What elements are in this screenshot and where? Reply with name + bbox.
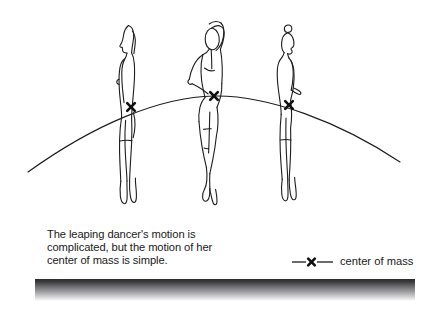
legend-x-marker (308, 259, 315, 266)
legend-swatch (292, 259, 333, 266)
floor-gradient-bar (35, 279, 415, 301)
center-of-mass-parabola (28, 96, 400, 172)
dancer-middle (188, 22, 224, 205)
x-marker-left (127, 103, 135, 111)
center-of-mass-markers (127, 92, 293, 111)
dancer-left (117, 26, 137, 204)
dancer-center-of-mass-figure: The leaping dancer's motion is complicat… (0, 0, 430, 313)
legend-label: center of mass (340, 255, 413, 268)
dancer-right (277, 25, 301, 201)
figure-caption: The leaping dancer's motion is complicat… (47, 228, 257, 268)
